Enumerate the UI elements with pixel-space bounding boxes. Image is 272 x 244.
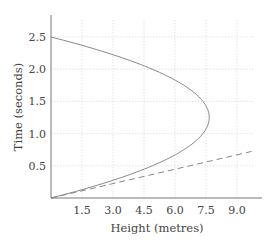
- y-tick-labels: 0.51.01.52.02.5: [29, 31, 47, 173]
- y-tick-label: 1.0: [29, 128, 47, 141]
- y-tick-label: 2.0: [29, 63, 47, 76]
- x-tick-label: 1.5: [73, 204, 91, 217]
- y-tick-label: 0.5: [29, 160, 47, 173]
- dashed-reference-line: [51, 151, 254, 198]
- x-tick-label: 4.5: [135, 204, 153, 217]
- x-tick-label: 7.5: [197, 204, 215, 217]
- x-tick-labels: 1.53.04.56.07.59.0: [73, 204, 246, 217]
- grid: [51, 20, 255, 198]
- x-tick-label: 3.0: [104, 204, 122, 217]
- y-tick-label: 2.5: [29, 31, 47, 44]
- y-axis-title: Time (seconds): [11, 63, 25, 151]
- trajectory-curve: [51, 37, 209, 198]
- x-tick-label: 9.0: [228, 204, 246, 217]
- y-tick-label: 1.5: [29, 95, 47, 108]
- series: [51, 37, 254, 198]
- x-axis-title: Height (metres): [110, 221, 203, 235]
- axes: [51, 15, 262, 198]
- x-tick-label: 6.0: [166, 204, 184, 217]
- chart: 1.53.04.56.07.59.0 0.51.01.52.02.5 Heigh…: [0, 0, 272, 244]
